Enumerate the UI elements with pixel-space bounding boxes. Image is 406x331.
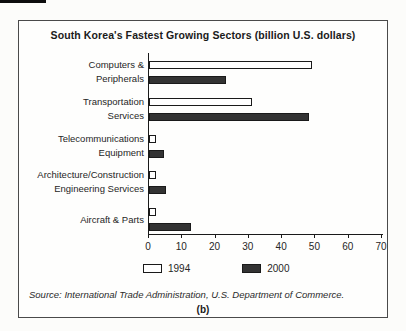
- x-tick-10: [181, 234, 182, 238]
- chart-panel: South Korea's Fastest Growing Sectors (b…: [18, 20, 388, 318]
- bar-2000-4: [149, 223, 191, 231]
- category-label-3: Architecture/ConstructionEngineering Ser…: [19, 168, 144, 195]
- source-note: Source: International Trade Administrati…: [29, 289, 381, 300]
- category-label-line: Aircraft & Parts: [19, 213, 144, 227]
- x-tick-50: [314, 234, 315, 238]
- category-label-0: Computers &Peripherals: [19, 58, 144, 85]
- bar-2000-0: [149, 76, 226, 84]
- legend-swatch-1994: [143, 264, 162, 273]
- category-label-line: Computers &: [19, 58, 144, 72]
- category-label-line: Telecommunications: [19, 132, 144, 146]
- bar-1994-3: [149, 171, 156, 179]
- category-label-line: Transportation: [19, 95, 144, 109]
- category-label-line: Architecture/Construction: [19, 168, 144, 182]
- bar-1994-0: [149, 61, 312, 69]
- x-tick-label-10: 10: [170, 241, 192, 252]
- x-tick-label-40: 40: [270, 241, 292, 252]
- category-label-1: TransportationServices: [19, 95, 144, 122]
- x-tick-70: [381, 234, 382, 238]
- panel-label: (b): [19, 304, 387, 315]
- x-tick-40: [281, 234, 282, 238]
- legend: 1994 2000: [143, 263, 290, 274]
- bar-2000-2: [149, 150, 164, 158]
- legend-swatch-2000: [242, 264, 261, 273]
- x-tick-60: [348, 234, 349, 238]
- bar-1994-4: [149, 208, 156, 216]
- x-tick-30: [248, 234, 249, 238]
- figure: South Korea's Fastest Growing Sectors (b…: [0, 0, 406, 331]
- category-label-line: Peripherals: [19, 72, 144, 86]
- x-tick-label-70: 70: [370, 241, 392, 252]
- x-tick-label-60: 60: [337, 241, 359, 252]
- category-label-line: Engineering Services: [19, 182, 144, 196]
- legend-label-2000: 2000: [267, 263, 289, 274]
- category-label-4: Aircraft & Parts: [19, 213, 144, 227]
- bar-1994-2: [149, 135, 156, 143]
- x-tick-label-0: 0: [137, 241, 159, 252]
- legend-label-1994: 1994: [168, 263, 190, 274]
- category-label-line: Services: [19, 109, 144, 123]
- bar-1994-1: [149, 98, 252, 106]
- x-tick-label-50: 50: [303, 241, 325, 252]
- category-label-line: Equipment: [19, 146, 144, 160]
- bar-2000-1: [149, 113, 309, 121]
- scan-crop-mark: [0, 0, 46, 3]
- category-label-2: TelecommunicationsEquipment: [19, 132, 144, 159]
- x-tick-0: [148, 234, 149, 238]
- x-tick-20: [215, 234, 216, 238]
- bar-2000-3: [149, 186, 166, 194]
- x-tick-label-30: 30: [237, 241, 259, 252]
- x-tick-label-20: 20: [204, 241, 226, 252]
